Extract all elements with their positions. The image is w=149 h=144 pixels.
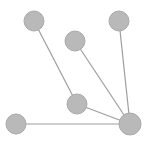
- graph-node-n3: [65, 31, 85, 51]
- graph-node-n2: [109, 11, 129, 31]
- graph-diagram: [0, 0, 149, 144]
- graph-node-n6: [119, 113, 141, 135]
- graph-node-n5: [6, 114, 26, 134]
- graph-node-n4: [67, 94, 87, 114]
- graph-node-n1: [24, 11, 44, 31]
- edge-n2-n6: [119, 21, 130, 124]
- node-layer: [6, 11, 141, 135]
